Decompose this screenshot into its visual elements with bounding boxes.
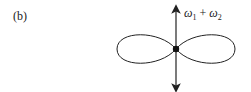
arrow-label: ω1+ω2 (184, 6, 222, 22)
left-lobe (117, 35, 176, 64)
source-dot (173, 46, 179, 52)
radiation-pattern-diagram: ω1+ω2 (0, 0, 251, 92)
right-lobe (176, 35, 235, 64)
